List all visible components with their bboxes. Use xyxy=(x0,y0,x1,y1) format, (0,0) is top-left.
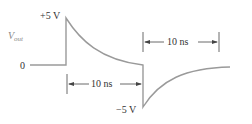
vout-label: Vout xyxy=(8,30,24,43)
waveform-diagram: 0 +5 V −5 V Vout 10 ns 10 ns xyxy=(0,0,252,124)
pos-peak-label: +5 V xyxy=(40,10,61,21)
arrow-left-icon xyxy=(68,82,74,86)
interval-top-label: 10 ns xyxy=(167,36,189,47)
arrow-right-icon xyxy=(212,40,218,44)
zero-label: 0 xyxy=(20,60,25,71)
arrow-right-icon xyxy=(136,82,142,86)
interval-bottom-label: 10 ns xyxy=(91,78,113,89)
arrow-left-icon xyxy=(144,40,150,44)
neg-peak-label: −5 V xyxy=(116,104,137,115)
waveform-trace xyxy=(30,18,230,107)
